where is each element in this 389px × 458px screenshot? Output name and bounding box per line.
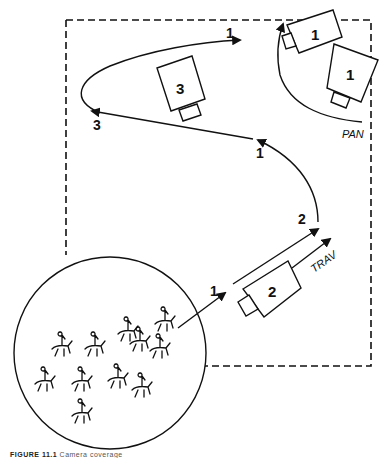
camera-1a-label: 1 [311,26,319,43]
pan-label: PAN [342,128,364,140]
camera-2-label: 2 [268,283,276,300]
path-segment-to-3 [92,111,253,139]
caption-text: Camera coverage [60,451,123,458]
camera-1b-label: 1 [346,66,354,83]
caption-prefix: FIGURE 11.1 [10,451,57,458]
camera-3-label: 3 [176,80,184,97]
path-segment-curve-up [258,140,318,222]
figure-caption: FIGURE 11.1 Camera coverage [10,451,123,458]
camera-3: 3 [157,56,205,121]
path-label-start: 1 [210,283,218,299]
camera-1b: 1 [327,44,378,108]
path-label-3: 3 [93,117,101,133]
path-label-2: 2 [298,211,306,227]
camera-2: 2 [238,261,301,317]
subject-circle [14,257,206,449]
path-label-end: 1 [226,25,234,41]
path-label-mid: 1 [256,145,264,161]
